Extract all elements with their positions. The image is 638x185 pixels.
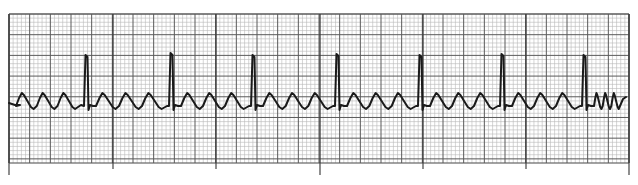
ecg-strip: [0, 0, 638, 185]
